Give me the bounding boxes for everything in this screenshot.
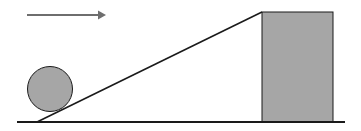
arrowhead-icon: [98, 11, 106, 20]
ball: [28, 67, 73, 112]
block: [262, 12, 333, 122]
incline-ramp: [37, 12, 262, 122]
incline-diagram: [0, 0, 361, 131]
direction-arrow: [27, 11, 106, 20]
